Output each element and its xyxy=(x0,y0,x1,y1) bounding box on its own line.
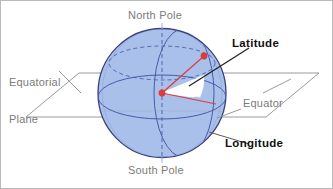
label-equatorial-plane: Equatorial Plane xyxy=(9,51,61,150)
label-north-pole: North Pole xyxy=(128,9,182,21)
label-equatorial-plane-line2: Plane xyxy=(9,113,61,125)
label-latitude: Latitude xyxy=(232,37,279,50)
equator-leader-line-upper xyxy=(263,79,291,93)
label-south-pole: South Pole xyxy=(128,164,184,176)
label-longitude: Longitude xyxy=(225,137,283,150)
label-equator: Equator xyxy=(243,97,283,109)
surface-point-marker xyxy=(201,53,208,60)
latitude-longitude-diagram: North Pole South Pole Equatorial Plane E… xyxy=(0,0,333,189)
center-point-marker xyxy=(159,90,166,97)
label-equatorial-plane-line1: Equatorial xyxy=(9,76,61,88)
